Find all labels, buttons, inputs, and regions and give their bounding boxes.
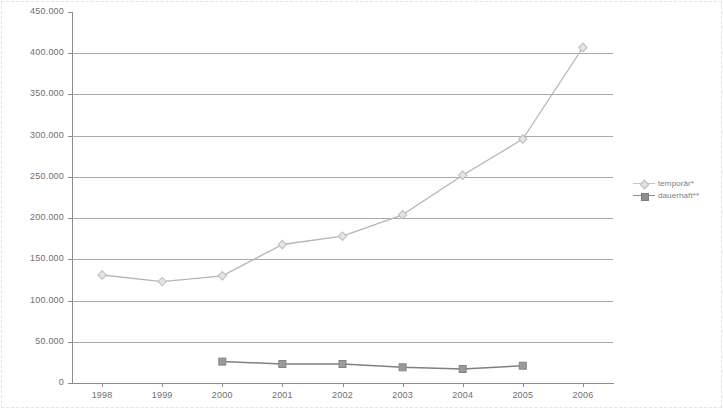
y-axis-tick-label: 150.000 [2,253,64,263]
legend-label-temporaer: temporär* [658,178,694,190]
line-chart: 050.000100.000150.000200.000250.000300.0… [0,0,723,409]
data-point-marker[interactable] [98,271,106,279]
x-axis-tick-label: 2001 [252,390,312,400]
x-axis-tick-label: 2002 [313,390,373,400]
data-point-marker[interactable] [279,361,286,368]
chart-legend: temporär* dauerhaft** [633,178,699,202]
data-point-marker[interactable] [218,272,226,280]
x-axis-tick-label: 1999 [132,390,192,400]
series-line [102,48,583,282]
x-axis-tick-label: 2006 [553,390,613,400]
x-axis-tick-label: 2003 [373,390,433,400]
y-axis-tick-label: 350.000 [2,88,64,98]
data-point-marker[interactable] [278,240,286,248]
x-axis-tick-mark [222,383,223,387]
x-axis-tick-mark [102,383,103,387]
y-axis-tick-label: 450.000 [2,6,64,16]
x-axis-tick-mark [162,383,163,387]
data-point-marker[interactable] [519,362,526,369]
y-axis-tick-label: 250.000 [2,171,64,181]
data-point-marker[interactable] [338,232,346,240]
data-point-marker[interactable] [579,43,587,51]
legend-item-dauerhaft[interactable]: dauerhaft** [633,190,699,202]
legend-marker-diamond-icon [633,179,655,189]
x-axis-tick-mark [282,383,283,387]
data-point-marker[interactable] [519,135,527,143]
data-point-marker[interactable] [459,366,466,373]
y-axis-tick-label: 300.000 [2,130,64,140]
legend-marker-square-icon [633,191,655,201]
x-axis-tick-mark [523,383,524,387]
x-axis-tick-mark [583,383,584,387]
x-axis-tick-mark [343,383,344,387]
legend-item-temporaer[interactable]: temporär* [633,178,699,190]
y-axis-tick-label: 200.000 [2,212,64,222]
series-line [222,362,523,369]
y-axis-tick-label: 100.000 [2,295,64,305]
data-point-marker[interactable] [219,358,226,365]
y-axis-tick-label: 0 [2,377,64,387]
series-dauerhaft [219,358,527,372]
data-point-marker[interactable] [339,361,346,368]
data-point-marker[interactable] [398,211,406,219]
y-axis-tick-label: 50.000 [2,336,64,346]
x-axis-tick-mark [403,383,404,387]
x-axis-tick-mark [463,383,464,387]
series-layer [72,12,613,383]
x-axis-tick-label: 2000 [192,390,252,400]
data-point-marker[interactable] [458,171,466,179]
data-point-marker[interactable] [158,277,166,285]
x-axis-tick-label: 2004 [433,390,493,400]
series-temporaer [98,43,587,286]
legend-label-dauerhaft: dauerhaft** [658,190,699,202]
data-point-marker[interactable] [399,364,406,371]
x-axis-tick-label: 1998 [72,390,132,400]
x-axis-tick-label: 2005 [493,390,553,400]
y-axis-tick-label: 400.000 [2,47,64,57]
plot-area [72,12,613,383]
